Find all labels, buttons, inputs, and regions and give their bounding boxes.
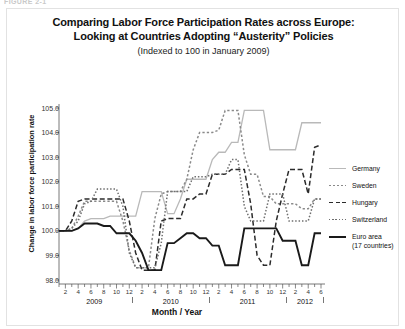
year-separator-tick	[209, 297, 210, 303]
x-axis-month-tick: 4	[150, 288, 160, 295]
legend-sublabel: (17 countries)	[352, 241, 394, 250]
y-axis-tick-labels: 105.0104.0103.0102.0101.0100.099.098.0	[21, 9, 59, 327]
y-axis-tick: 105.0	[29, 105, 59, 112]
legend-swatch-icon	[329, 168, 346, 169]
series-line-germany	[59, 110, 321, 230]
x-axis-month-tick: 10	[265, 288, 275, 295]
x-axis-month-tick: 8	[252, 288, 262, 295]
x-axis-month-tick: 6	[316, 288, 326, 295]
legend-label: Germany	[352, 164, 380, 173]
legend-swatch-icon	[329, 185, 346, 186]
figure-number-label: FIGURE 2-1	[4, 0, 47, 5]
legend-item-hungary[interactable]: Hungary	[329, 198, 405, 209]
x-axis-year-tick: 2009	[74, 298, 114, 306]
legend-swatch-icon	[329, 219, 346, 220]
legend-swatch-icon	[329, 202, 346, 203]
x-axis-month-tick: 12	[124, 288, 134, 295]
y-axis-tick: 100.0	[29, 227, 59, 234]
legend-item-switzerland[interactable]: Switzerland	[329, 215, 405, 226]
x-axis-label: Month / Year	[47, 307, 307, 317]
x-axis-year-tick: 2012	[285, 298, 325, 306]
year-separator-tick	[323, 297, 324, 303]
figure-root: FIGURE 2-1 Comparing Labor Force Partici…	[0, 0, 405, 329]
legend-label: Switzerland	[352, 215, 387, 224]
y-axis-tick: 103.0	[29, 154, 59, 161]
series-line-switzerland	[59, 160, 321, 268]
x-axis-month-tick: 12	[201, 288, 211, 295]
y-axis-tick: 102.0	[29, 178, 59, 185]
plot-area-wrapper: Change in labor force participation rate…	[7, 9, 400, 327]
year-separator-tick	[132, 297, 133, 303]
series-line-hungary	[59, 145, 321, 270]
x-axis-month-tick: 2	[214, 288, 224, 295]
x-axis-month-tick: 6	[163, 288, 173, 295]
x-axis-month-tick: 10	[188, 288, 198, 295]
figure-card: Comparing Labor Force Participation Rate…	[6, 8, 399, 326]
legend-label: Sweden	[352, 181, 377, 190]
legend-item-germany[interactable]: Germany	[329, 164, 405, 175]
x-axis-month-tick: 4	[303, 288, 313, 295]
x-axis-month-tick: 10	[112, 288, 122, 295]
y-axis-tick: 98.0	[29, 277, 59, 284]
x-axis-month-tick: 8	[99, 288, 109, 295]
series-line-sweden	[59, 110, 321, 267]
x-axis-month-tick: 6	[239, 288, 249, 295]
x-axis-month-tick: 2	[137, 288, 147, 295]
x-axis-month-tick: 2	[290, 288, 300, 295]
y-axis-tick: 104.0	[29, 129, 59, 136]
legend-label: Euro area(17 countries)	[352, 232, 394, 250]
legend-label: Hungary	[352, 198, 378, 207]
series-line-euro-area-countries	[59, 223, 321, 270]
x-axis-year-tick: 2011	[228, 298, 268, 306]
legend-item-euro-area[interactable]: Euro area(17 countries)	[329, 232, 405, 252]
chart-legend: GermanySwedenHungarySwitzerlandEuro area…	[329, 164, 405, 258]
x-axis-month-tick: 6	[86, 288, 96, 295]
x-axis-year-tick: 2010	[151, 298, 191, 306]
x-axis-month-tick: 12	[278, 288, 288, 295]
y-axis-tick: 99.0	[29, 252, 59, 259]
x-axis-month-tick: 8	[175, 288, 185, 295]
y-axis-tick: 101.0	[29, 203, 59, 210]
x-axis-month-tick: 2	[60, 288, 70, 295]
legend-swatch-icon	[329, 236, 346, 238]
legend-item-sweden[interactable]: Sweden	[329, 181, 405, 192]
x-axis-month-tick: 4	[73, 288, 83, 295]
x-axis-month-tick: 4	[227, 288, 237, 295]
